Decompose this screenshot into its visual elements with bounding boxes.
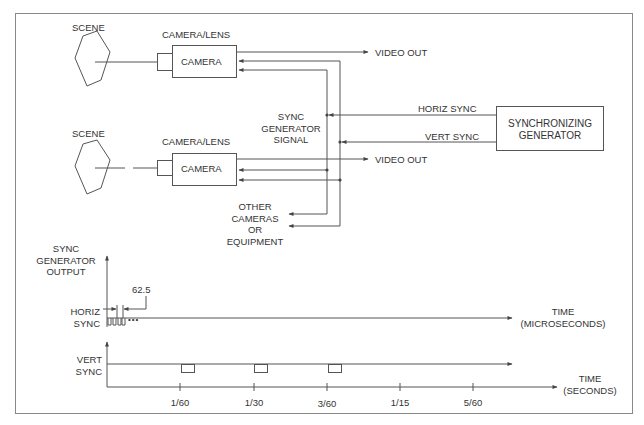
vert-sync-label: VERT SYNC [425, 131, 479, 143]
scene-label-top: SCENE [72, 22, 105, 34]
period-label: 62.5 [132, 284, 151, 296]
camera-lens-label-top: CAMERA/LENS [162, 29, 230, 41]
time-seconds-label: TIME (SECONDS) [560, 373, 620, 396]
scene-icon-bottom [75, 140, 110, 194]
time-microseconds-label: TIME (MICROSECONDS) [518, 306, 608, 329]
camera-label-top: CAMERA [181, 56, 222, 68]
camera-lens-label-bottom: CAMERA/LENS [162, 136, 230, 148]
sync-generator-signal-label: SYNC GENERATOR SIGNAL [256, 111, 326, 146]
video-out-label-bottom: VIDEO OUT [375, 154, 427, 166]
tick-label-2: 1/30 [234, 397, 274, 409]
tick-label-1: 1/60 [160, 397, 200, 409]
video-out-label-top: VIDEO OUT [375, 47, 427, 59]
camera-label-bottom: CAMERA [181, 163, 222, 175]
lens-icon-bottom [158, 161, 173, 176]
vert-sync-axis-label: VERT SYNC [56, 354, 102, 377]
tick-label-4: 1/15 [380, 397, 420, 409]
other-equipment-label: OTHER CAMERAS OR EQUIPMENT [222, 201, 288, 247]
synchronizing-generator-label: SYNCHRONIZING GENERATOR [497, 118, 603, 141]
scene-icon-top [75, 31, 110, 86]
sync-generator-output-label: SYNC GENERATOR OUTPUT [30, 243, 102, 278]
lens-icon-top [158, 54, 173, 71]
continuation-dots: ••• [128, 314, 139, 326]
tick-label-3: 3/60 [307, 398, 347, 410]
tick-label-5: 5/60 [453, 397, 493, 409]
horiz-sync-label: HORIZ SYNC [418, 103, 477, 115]
horiz-sync-axis-label: HORIZ SYNC [56, 306, 100, 329]
scene-label-bottom: SCENE [72, 128, 105, 140]
